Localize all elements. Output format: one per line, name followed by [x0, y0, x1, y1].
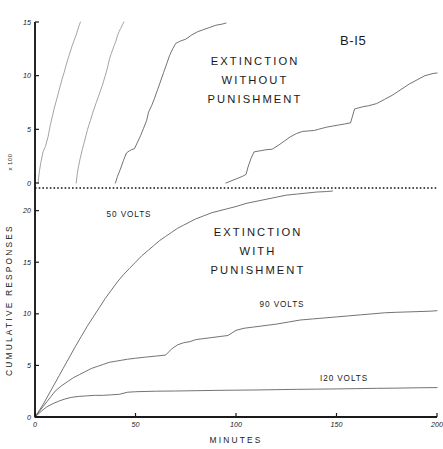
y-ticklabel-upper: 0 [27, 179, 31, 188]
series-label-50-volts: 50 VOLTS [107, 210, 152, 219]
lower-panel-title-line: WITH [240, 245, 277, 257]
y-ticklabel-lower: 20 [22, 206, 31, 215]
curve-120-volts [35, 388, 437, 417]
lower-panel-title-line: PUNISHMENT [211, 264, 306, 276]
y-ticklabel-upper: 10 [23, 71, 31, 80]
y-ticklabel-lower: 5 [27, 361, 32, 370]
lower-y-ticks: 05101520 [22, 206, 39, 421]
curve-extinction-curve-1 [38, 22, 80, 183]
lower-panel-title: EXTINCTIONWITHPUNISHMENT [211, 226, 306, 276]
y-ticklabel-upper: 5 [27, 125, 32, 134]
x-ticklabel: 0 [33, 420, 37, 429]
y-ticklabel-lower: 10 [23, 309, 31, 318]
y-ticklabel-lower: 15 [23, 258, 32, 267]
y-axis-title: CUMULATIVE RESPONSES [4, 224, 14, 376]
series-label-90-volts: 90 VOLTS [260, 300, 305, 309]
subject-label: B-I5 [340, 33, 366, 48]
chart-canvas: 05101505101520050100150200MINUTESCUMULAT… [0, 0, 443, 449]
upper-y-ticks: 051015 [23, 18, 39, 188]
x-axis-title: MINUTES [209, 435, 262, 445]
cumulative-record-chart: 05101505101520050100150200MINUTESCUMULAT… [0, 0, 443, 449]
curve-90-volts [35, 311, 437, 417]
lower-panel-title-line: EXTINCTION [214, 226, 303, 238]
lower-panel-curves [35, 191, 437, 417]
x-ticklabel: 150 [331, 420, 343, 429]
x-ticks: 050100150200 [33, 413, 443, 429]
curve-extinction-curve-4 [226, 73, 437, 183]
upper-panel-title-line: WITHOUT [222, 74, 289, 86]
x-ticklabel: 100 [230, 420, 242, 429]
upper-panel-title-line: EXTINCTION [211, 55, 300, 67]
upper-panel-title: EXTINCTIONWITHOUTPUNISHMENT [208, 55, 303, 105]
y-axis-multiplier-note: x 100 [6, 153, 13, 170]
series-label-120-volts: I20 VOLTS [320, 374, 368, 383]
y-ticklabel-upper: 15 [23, 18, 32, 27]
x-ticklabel: 200 [430, 420, 443, 429]
y-ticklabel-lower: 0 [27, 413, 31, 422]
curve-extinction-curve-2 [76, 22, 124, 183]
x-ticklabel: 50 [132, 420, 140, 429]
upper-panel-title-line: PUNISHMENT [208, 93, 303, 105]
